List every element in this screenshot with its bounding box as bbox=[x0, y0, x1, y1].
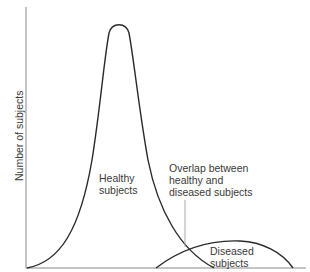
overlap-label: Overlap between healthy and diseased sub… bbox=[169, 162, 252, 198]
healthy-label: Healthy subjects bbox=[99, 172, 138, 196]
healthy-label-line2: subjects bbox=[99, 184, 138, 196]
overlap-label-line1: Overlap between bbox=[169, 162, 252, 174]
overlap-label-line2: healthy and bbox=[169, 174, 252, 186]
y-axis-label: Number of subjects bbox=[13, 91, 25, 181]
healthy-curve bbox=[27, 25, 214, 268]
healthy-label-line1: Healthy bbox=[99, 172, 138, 184]
overlap-label-line3: diseased subjects bbox=[169, 186, 252, 198]
diseased-label-line2: subjects bbox=[210, 257, 254, 269]
diseased-label-line1: Diseased bbox=[210, 245, 254, 257]
diseased-label: Diseased subjects bbox=[210, 245, 254, 269]
diagram-canvas bbox=[0, 0, 310, 272]
